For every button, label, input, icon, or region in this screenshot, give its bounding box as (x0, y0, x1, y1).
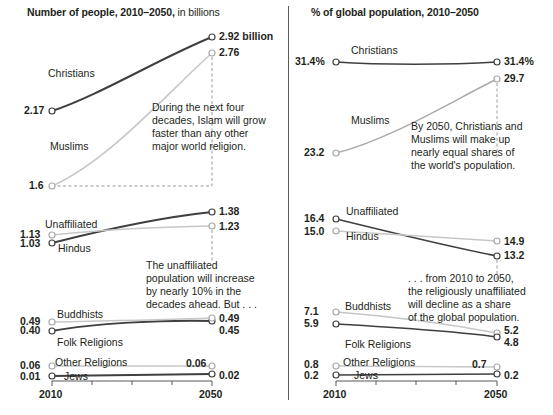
value-folk-2010-right: 5.9 (304, 318, 319, 329)
point-muslims-2010-left (49, 183, 55, 189)
point-folk-2010-right (333, 321, 339, 327)
point-jews-2010-left (49, 373, 55, 379)
value-buddhists-2050-right: 5.2 (504, 325, 519, 336)
point-christians-2010-left (49, 108, 55, 114)
value-muslims-2010-right: 23.2 (304, 147, 324, 158)
point-christians-2050-right (494, 59, 500, 65)
point-unaffiliated-2050-right (494, 253, 500, 259)
value-folk-2050-left: 0.45 (219, 325, 239, 336)
value-other-2050-left: 0.06 (186, 358, 206, 369)
axis-year-start-right: 2010 (323, 388, 346, 400)
point-buddhists-2010-left (49, 319, 55, 325)
series-label-folk-right: Folk Religions (345, 339, 411, 350)
point-folk-2050-right (494, 334, 500, 340)
series-label-muslims-right: Muslims (351, 115, 390, 126)
point-hindus-2050-right (494, 238, 500, 244)
value-hindus-2050-left: 1.38 (219, 206, 239, 217)
series-label-hindus-right: Hindus (346, 231, 379, 242)
point-unaffiliated-2050-left (209, 223, 215, 229)
point-hindus-2010-left (49, 240, 55, 246)
left-chart-svg (0, 0, 288, 415)
point-muslims-2050-left (209, 50, 215, 56)
series-label-buddhists-left: Buddhists (57, 309, 103, 320)
point-jews-2010-right (333, 372, 339, 378)
series-label-buddhists-right: Buddhists (345, 301, 391, 312)
value-muslims-2050-right: 29.7 (504, 73, 524, 84)
value-folk-2050-right: 4.8 (504, 337, 519, 348)
line-christians-right (336, 62, 497, 64)
value-christians-2010-left: 2.17 (24, 105, 44, 116)
value-jews-2010-right: 0.2 (304, 370, 319, 381)
point-christians-2010-right (333, 59, 339, 65)
series-label-folk-left: Folk Religions (57, 337, 123, 348)
value-muslims-2010-left: 1.6 (29, 180, 44, 191)
point-unaffiliated-2010-right (333, 216, 339, 222)
series-label-other-right: Other Religions (343, 357, 415, 368)
point-buddhists-2010-right (333, 309, 339, 315)
infographic-root: Number of people, 2010–2050, in billions… (0, 0, 553, 415)
series-label-unaffiliated-right: Unaffiliated (346, 206, 398, 217)
series-label-christians-right: Christians (351, 45, 398, 56)
value-buddhists-2050-left: 0.49 (219, 313, 239, 324)
value-hindus-2010-left: 1.03 (20, 238, 40, 249)
line-folk-right (336, 324, 497, 337)
series-label-jews-right: Jews (354, 370, 378, 381)
value-unaffiliated-2050-right: 13.2 (504, 250, 524, 261)
point-jews-2050-right (494, 371, 500, 377)
value-folk-2010-left: 0.40 (20, 325, 40, 336)
annotation-parity: By 2050, Christians and Muslims will mak… (411, 120, 553, 172)
value-unaffiliated-2050-left: 1.23 (219, 221, 239, 232)
point-other-2050-left (209, 363, 215, 369)
series-label-christians-left: Christians (48, 68, 95, 79)
value-other-2050-right: 0.7 (472, 359, 487, 370)
value-christians-2050-left: 2.92 billion (219, 31, 273, 42)
series-label-unaffiliated-left: Unaffiliated (45, 219, 97, 230)
point-muslims-2010-right (333, 150, 339, 156)
x-axis-ticks-right (336, 381, 497, 386)
annotation-islam-growth: During the next four decades, Islam will… (152, 101, 280, 153)
point-folk-2010-left (49, 328, 55, 334)
value-christians-2050-right: 31.4% (504, 56, 534, 67)
axis-year-end-right: 2050 (484, 388, 507, 400)
value-unaffiliated-2010-right: 16.4 (304, 213, 324, 224)
chart-panel-right: 31.4% 29.7 31.4% 23.2 Christians Muslims… (289, 0, 553, 415)
series-label-muslims-left: Muslims (50, 141, 89, 152)
value-buddhists-2010-right: 7.1 (304, 306, 319, 317)
value-jews-2050-right: 0.2 (504, 370, 519, 381)
series-label-other-left: Other Religions (55, 357, 127, 368)
line-folk-left (52, 321, 212, 331)
point-muslims-2050-right (494, 76, 500, 82)
point-other-2050-right (494, 364, 500, 370)
point-hindus-2050-left (209, 209, 215, 215)
value-jews-2010-left: 0.01 (20, 371, 40, 382)
value-jews-2050-left: 0.02 (219, 370, 239, 381)
series-label-jews-left: Jews (64, 371, 88, 382)
value-hindus-2050-right: 14.9 (504, 236, 524, 247)
value-hindus-2010-right: 15.0 (304, 226, 324, 237)
point-jews-2050-left (209, 371, 215, 377)
axis-year-start-left: 2010 (39, 388, 62, 400)
point-buddhists-2050-left (209, 315, 215, 321)
point-other-2010-right (333, 363, 339, 369)
series-label-hindus-left: Hindus (58, 243, 91, 254)
point-unaffiliated-2010-left (49, 232, 55, 238)
annotation-unaffiliated-decline: . . . from 2010 to 2050, the religiously… (408, 272, 553, 324)
point-hindus-2010-right (333, 228, 339, 234)
annotation-unaffiliated-growth: The unaffiliated population will increas… (146, 259, 280, 311)
value-christians-2010-right: 31.4% (295, 56, 325, 67)
chart-panel-left: 2.92 billion 2.76 2.17 1.6 Christians Mu… (0, 0, 288, 415)
axis-year-end-left: 2050 (199, 388, 222, 400)
point-christians-2050-left (209, 34, 215, 40)
value-muslims-2050-left: 2.76 (219, 47, 239, 58)
